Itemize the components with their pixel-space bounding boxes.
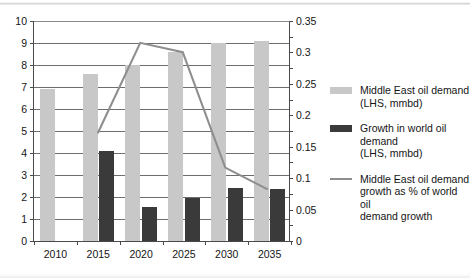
right-axis-tick-label: 0.2 [296, 109, 311, 121]
right-axis-minor-tick [290, 68, 293, 69]
x-axis-tick-label: 2010 [44, 248, 67, 260]
right-axis-tick-label: 0.1 [296, 172, 311, 184]
left-axis-tick-label: 9 [21, 37, 27, 49]
legend-item: Middle East oil demandgrowth as % of wor… [330, 173, 470, 223]
legend-label: Middle East oil demand(LHS, mmbd) [360, 84, 469, 109]
x-axis-tick-label: 2025 [172, 248, 195, 260]
x-axis-tick [291, 241, 292, 245]
right-axis-minor-tick [290, 194, 293, 195]
left-axis-tick-label: 7 [21, 81, 27, 93]
right-axis-tick [289, 147, 293, 148]
right-axis-tick [289, 21, 293, 22]
right-axis-tick-label: 0.25 [296, 78, 316, 90]
left-axis-tick-label: 5 [21, 125, 27, 137]
left-axis-tick-label: 10 [15, 15, 27, 27]
legend-line-icon [330, 178, 352, 180]
scan-artifact-bottom [0, 274, 470, 278]
legend-dark-swatch-icon [330, 125, 352, 132]
right-axis-tick-label: 0 [296, 235, 302, 247]
legend-label: Growth in world oil demand(LHS, mmbd) [360, 122, 470, 160]
legend-swatch-wrapper [330, 84, 360, 97]
x-axis-tick [77, 241, 78, 245]
right-axis-tick-label: 0.3 [296, 46, 311, 58]
left-axis-tick-label: 6 [21, 103, 27, 115]
right-axis-tick-label: 0.35 [296, 15, 316, 27]
x-axis-tick-label: 2020 [129, 248, 152, 260]
line-series-svg [34, 21, 289, 239]
right-axis-tick [289, 210, 293, 211]
x-axis-tick-label: 2015 [87, 248, 110, 260]
legend-swatch-wrapper [330, 173, 360, 186]
right-axis-tick [289, 52, 293, 53]
legend-item: Growth in world oil demand(LHS, mmbd) [330, 122, 470, 160]
legend-item: Middle East oil demand(LHS, mmbd) [330, 84, 470, 109]
left-axis-tick-label: 0 [21, 235, 27, 247]
left-axis-tick-label: 2 [21, 191, 27, 203]
plot-frame: 012345678910 00.050.10.150.20.250.30.35 … [33, 21, 290, 241]
left-axis-tick-label: 8 [21, 59, 27, 71]
scan-artifact-top [0, 2, 470, 5]
chart-legend: Middle East oil demand(LHS, mmbd)Growth … [330, 84, 470, 236]
x-axis-tick-label: 2030 [215, 248, 238, 260]
chart-plot-area: 012345678910 00.050.10.150.20.250.30.35 … [33, 21, 290, 241]
right-axis-tick [289, 178, 293, 179]
gridline [34, 241, 289, 242]
legend-swatch-wrapper [330, 122, 360, 135]
left-axis-tick-label: 1 [21, 213, 27, 225]
legend-light-swatch-icon [330, 87, 352, 94]
right-axis-minor-tick [290, 162, 293, 163]
x-axis-tick [163, 241, 164, 245]
right-axis-tick-label: 0.05 [296, 204, 316, 216]
line-series-path [98, 43, 268, 190]
right-axis-minor-tick [290, 225, 293, 226]
right-axis-tick-label: 0.15 [296, 141, 316, 153]
x-axis-tick [248, 241, 249, 245]
right-axis-minor-tick [290, 131, 293, 132]
legend-label: Middle East oil demandgrowth as % of wor… [360, 173, 470, 223]
left-axis-tick-label: 3 [21, 169, 27, 181]
x-axis-tick [34, 241, 35, 245]
x-axis-tick-label: 2035 [258, 248, 281, 260]
x-axis-tick [120, 241, 121, 245]
x-axis-tick [205, 241, 206, 245]
right-axis-minor-tick [290, 100, 293, 101]
right-axis-tick [289, 84, 293, 85]
right-axis-minor-tick [290, 37, 293, 38]
right-axis-tick [289, 115, 293, 116]
left-axis-tick-label: 4 [21, 147, 27, 159]
